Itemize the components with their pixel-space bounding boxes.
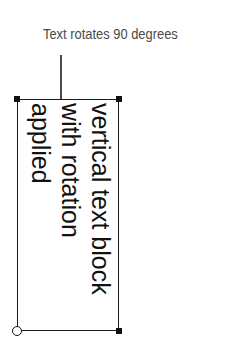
resize-handle-bottom-right[interactable]	[116, 328, 122, 334]
origin-handle-bottom-left[interactable]	[12, 326, 22, 336]
text-line-3: applied	[26, 103, 56, 331]
callout-leader-line	[60, 55, 62, 100]
rotated-text-block[interactable]: vertical text block with rotation applie…	[17, 99, 119, 331]
resize-handle-top-right[interactable]	[116, 96, 122, 102]
text-line-1: vertical text block	[86, 103, 116, 331]
resize-handle-top-left[interactable]	[14, 96, 20, 102]
callout-caption: Text rotates 90 degrees	[43, 25, 178, 42]
text-line-2: with rotation	[56, 103, 86, 331]
